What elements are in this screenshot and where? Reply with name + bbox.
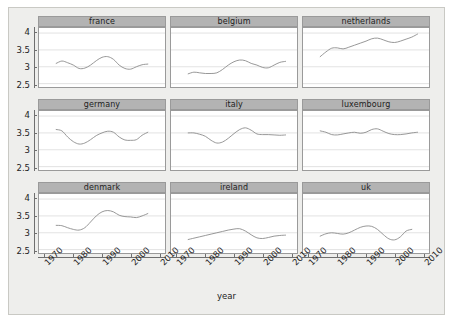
y-tick-mark-4 [34,32,37,33]
panel-title-luxembourg: luxembourg [342,101,391,109]
panel-title-netherlands: netherlands [342,18,391,26]
y-tick-mark-3 [34,67,37,68]
panel-title-uk: uk [361,184,371,192]
y-tick-label-4: 4 [8,28,30,37]
panel-netherlands: netherlands [302,16,430,88]
y-axis-spine-row-2 [34,193,35,254]
panel-title-belgium: belgium [217,18,250,26]
panel-title-denmark: denmark [84,184,120,192]
plot-area-netherlands [302,27,430,88]
plot-area-italy [170,110,298,171]
y-tick-label-3: 3 [8,63,30,72]
y-tick-mark-4 [34,198,37,199]
panel-denmark: denmark [38,182,166,254]
panel-title-france: france [89,18,115,26]
plot-area-germany [38,110,166,171]
y-tick-mark-3.5 [34,133,37,134]
data-line-germany [56,130,148,145]
panel-strip-belgium: belgium [170,16,298,27]
panel-strip-ireland: ireland [170,182,298,193]
y-tick-mark-3 [34,150,37,151]
data-line-denmark [56,211,148,231]
y-tick-mark-2.5 [34,85,37,86]
panel-italy: italy [170,99,298,171]
plot-area-luxembourg [302,110,430,171]
panel-strip-uk: uk [302,182,430,193]
y-tick-label-3: 3 [8,146,30,155]
panel-germany: germany [38,99,166,171]
panel-strip-france: france [38,16,166,27]
y-tick-label-2.5: 2.5 [8,247,30,256]
y-tick-label-3.5: 3.5 [8,46,30,55]
y-tick-label-3.5: 3.5 [8,212,30,221]
panel-strip-germany: germany [38,99,166,110]
data-line-ireland [188,229,285,240]
panel-france: france [38,16,166,88]
data-line-italy [188,128,285,143]
panel-strip-netherlands: netherlands [302,16,430,27]
y-tick-label-2.5: 2.5 [8,164,30,173]
y-tick-mark-3.5 [34,216,37,217]
data-line-france [56,57,148,70]
panel-strip-italy: italy [170,99,298,110]
panel-title-italy: italy [225,101,243,109]
y-tick-mark-3.5 [34,50,37,51]
panel-strip-luxembourg: luxembourg [302,99,430,110]
plot-area-belgium [170,27,298,88]
y-axis-spine-row-1 [34,110,35,171]
panel-strip-denmark: denmark [38,182,166,193]
y-tick-label-4: 4 [8,111,30,120]
y-tick-label-4: 4 [8,194,30,203]
panel-title-germany: germany [84,101,120,109]
panel-belgium: belgium [170,16,298,88]
panel-grid: francebelgiumnetherlandsgermanyitalyluxe… [0,0,453,323]
panel-ireland: ireland [170,182,298,254]
panel-uk: uk [302,182,430,254]
data-line-netherlands [320,34,417,57]
x-axis-title: year [0,292,453,301]
y-tick-mark-2.5 [34,251,37,252]
y-tick-label-2.5: 2.5 [8,81,30,90]
panel-title-ireland: ireland [220,184,248,192]
panel-luxembourg: luxembourg [302,99,430,171]
y-tick-label-3: 3 [8,229,30,238]
y-tick-mark-4 [34,115,37,116]
data-line-luxembourg [320,129,417,135]
plot-area-france [38,27,166,88]
y-tick-label-3.5: 3.5 [8,129,30,138]
y-tick-mark-3 [34,233,37,234]
figure-canvas: francebelgiumnetherlandsgermanyitalyluxe… [0,0,453,323]
y-axis-spine-row-0 [34,27,35,88]
y-tick-mark-2.5 [34,168,37,169]
